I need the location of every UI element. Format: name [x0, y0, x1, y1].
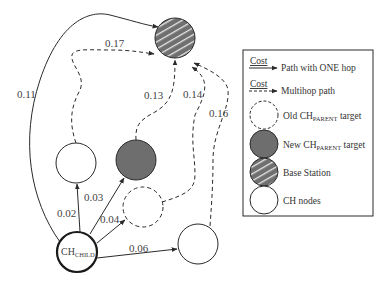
cost-label-0-03: 0.03	[84, 191, 104, 203]
svg-text:Base Station: Base Station	[283, 168, 331, 178]
cost-label-0-11: 0.11	[17, 88, 36, 100]
cost-label-0-17: 0.17	[105, 37, 125, 49]
routing-diagram: CHCHILD 0.11 0.17 0.13 0.14 0.16 0.02 0.…	[0, 0, 389, 285]
cost-label-0-16: 0.16	[209, 107, 229, 119]
ch-node-left	[56, 143, 96, 183]
cost-label-0-04: 0.04	[100, 213, 120, 225]
edge-left-to-base	[72, 50, 154, 143]
svg-text:Path with ONE hop: Path with ONE hop	[281, 63, 356, 73]
svg-text:Cost: Cost	[250, 56, 268, 66]
svg-text:Cost: Cost	[250, 79, 268, 89]
edge-child-to-left	[77, 184, 80, 232]
svg-text:Multihop path: Multihop path	[281, 86, 335, 96]
svg-text:CH nodes: CH nodes	[283, 196, 321, 206]
old-parent-node	[123, 187, 163, 227]
cost-label-0-06: 0.06	[129, 242, 149, 254]
cost-label-0-13: 0.13	[144, 89, 164, 101]
ch-node-right	[178, 224, 218, 264]
cost-label-0-14: 0.14	[183, 88, 203, 100]
legend: Cost Path with ONE hop Cost Multihop pat…	[243, 50, 373, 216]
base-station-node	[155, 18, 195, 58]
cost-label-0-02: 0.02	[57, 207, 76, 219]
new-parent-node	[116, 140, 156, 180]
